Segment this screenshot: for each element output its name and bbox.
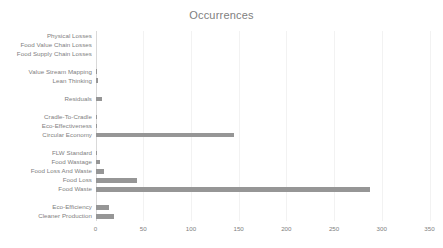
bar[interactable]	[96, 214, 114, 219]
x-axis-tick-label: 0	[94, 224, 97, 234]
category-label: Lean Thinking	[53, 76, 92, 85]
bar[interactable]	[96, 205, 109, 210]
category-label: Eco-Effectiveness	[42, 121, 92, 130]
category-label: Food Supply Chain Losses	[17, 49, 92, 58]
chart-title: Occurrences	[0, 9, 443, 21]
category-row: Lean Thinking	[0, 76, 443, 85]
category-row: Circular Economy	[0, 131, 443, 140]
category-label: Circular Economy	[42, 130, 92, 139]
category-row: Food Supply Chain Losses	[0, 49, 443, 58]
x-axis: 050100150200250300350	[0, 224, 443, 238]
x-axis-tick-label: 300	[377, 224, 387, 234]
x-axis-tick-label: 50	[140, 224, 147, 234]
category-label: Food Loss And Waste	[31, 166, 92, 175]
bar[interactable]	[96, 178, 138, 183]
x-axis-tick-label: 100	[186, 224, 196, 234]
bar[interactable]	[96, 97, 103, 102]
bar[interactable]	[96, 115, 97, 120]
bar[interactable]	[96, 133, 234, 138]
category-label: Value Stream Mapping	[29, 67, 92, 76]
category-label: Food Waste	[58, 184, 92, 193]
category-label: Food Value Chain Losses	[20, 40, 92, 49]
category-label: Residuals	[64, 94, 92, 103]
category-label: Food Loss	[63, 175, 92, 184]
category-label: Eco-Efficiency	[52, 202, 92, 211]
bar[interactable]	[96, 78, 99, 83]
x-axis-tick-label: 350	[424, 224, 434, 234]
category-label: FLW Standard	[52, 148, 92, 157]
category-rows: Physical LossesFood Value Chain LossesFo…	[0, 31, 443, 221]
x-axis-tick-label: 200	[281, 224, 291, 234]
category-label: Cleaner Production	[38, 211, 92, 220]
bar[interactable]	[96, 124, 97, 129]
bar[interactable]	[96, 69, 98, 74]
category-label: Food Wastage	[51, 157, 92, 166]
category-row: Food Waste	[0, 185, 443, 194]
bar[interactable]	[96, 187, 371, 192]
category-label: Physical Losses	[47, 31, 92, 40]
category-row: Residuals	[0, 94, 443, 103]
x-axis-tick-label: 250	[329, 224, 339, 234]
x-axis-tick-label: 150	[233, 224, 243, 234]
category-row: Cleaner Production	[0, 212, 443, 221]
category-label: Cradle-To-Cradle	[44, 112, 92, 121]
bar[interactable]	[96, 151, 97, 156]
bar[interactable]	[96, 160, 101, 165]
bar[interactable]	[96, 169, 105, 174]
bar-chart: Occurrences Physical LossesFood Value Ch…	[0, 0, 443, 248]
